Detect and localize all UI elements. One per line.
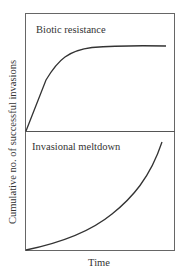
chart-canvas: [0, 0, 183, 276]
x-axis-label: Time: [88, 257, 110, 268]
panel-title-invasional-meltdown: Invasional meltdown: [32, 141, 120, 152]
panel-title-biotic-resistance: Biotic resistance: [36, 24, 106, 35]
y-axis-label: Cumulative no. of successful invasions: [7, 60, 18, 224]
figure: Biotic resistance Invasional meltdown Cu…: [0, 0, 183, 276]
biotic-resistance-curve: [26, 46, 166, 131]
invasional-meltdown-curve: [26, 142, 162, 250]
